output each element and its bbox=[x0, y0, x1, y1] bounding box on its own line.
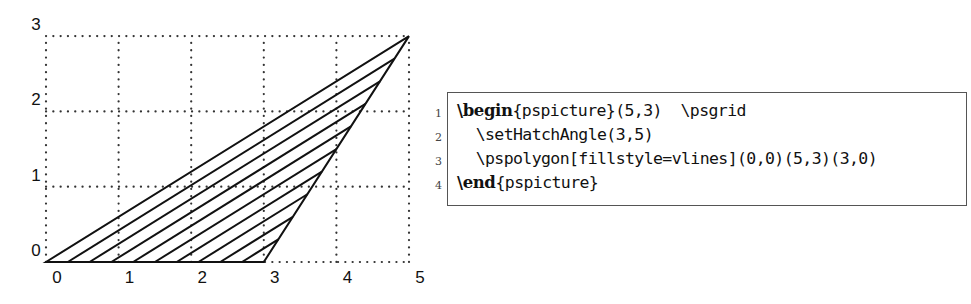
y-axis-ticks: 0123 bbox=[31, 15, 40, 260]
line-number: 3 bbox=[432, 155, 442, 168]
code-text: \pspolygon[fillstyle=vlines](0,0)(5,3)(3… bbox=[457, 149, 877, 168]
code-text: {pspicture}(5,3) \psgrid bbox=[512, 101, 745, 120]
code-line-1: 1 \begin{pspicture}(5,3) \psgrid bbox=[448, 101, 466, 123]
x-tick-label: 0 bbox=[52, 268, 61, 287]
x-tick-label: 2 bbox=[197, 268, 206, 287]
y-tick-label: 1 bbox=[31, 166, 40, 185]
y-tick-label: 3 bbox=[31, 15, 40, 34]
keyword-begin: \begin bbox=[457, 101, 512, 120]
x-tick-label: 5 bbox=[415, 268, 424, 287]
keyword-end: \end bbox=[457, 173, 495, 192]
line-number: 1 bbox=[432, 107, 442, 120]
hatch-lines bbox=[68, 59, 395, 262]
code-text: {pspicture} bbox=[495, 173, 598, 192]
x-tick-label: 4 bbox=[343, 268, 352, 287]
x-axis-ticks: 012345 bbox=[52, 268, 424, 287]
y-tick-label: 0 bbox=[31, 241, 40, 260]
x-tick-label: 1 bbox=[125, 268, 134, 287]
y-tick-label: 2 bbox=[31, 90, 40, 109]
line-number: 4 bbox=[432, 179, 442, 192]
code-line-3: 3 \pspolygon[fillstyle=vlines](0,0)(5,3)… bbox=[448, 149, 466, 171]
code-line-4: 4 \end{pspicture} bbox=[448, 173, 466, 195]
code-text: \setHatchAngle(3,5) bbox=[457, 125, 653, 144]
pspicture-figure: 012345 0123 bbox=[0, 0, 440, 304]
hatched-triangle bbox=[46, 36, 409, 262]
code-line-2: 2 \setHatchAngle(3,5) bbox=[448, 125, 466, 147]
line-number: 2 bbox=[432, 131, 442, 144]
code-listing: 1 \begin{pspicture}(5,3) \psgrid 2 \setH… bbox=[447, 92, 967, 206]
x-tick-label: 3 bbox=[270, 268, 279, 287]
